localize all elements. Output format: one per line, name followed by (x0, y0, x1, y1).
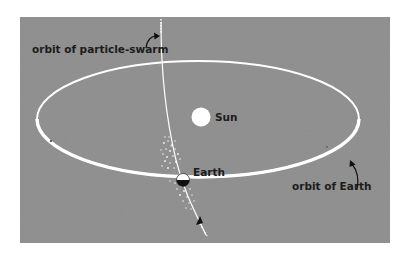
speck (50, 140, 52, 142)
earth-icon (177, 174, 190, 187)
label-earth: Earth (193, 166, 225, 178)
orbit-diagram: orbit of particle-swarm Sun Earth orbit … (0, 0, 411, 254)
label-earth-orbit: orbit of Earth (292, 180, 372, 192)
speck (326, 146, 328, 148)
label-particle-swarm-orbit: orbit of particle-swarm (32, 43, 169, 55)
sun-icon (192, 108, 211, 127)
label-sun: Sun (215, 111, 238, 123)
